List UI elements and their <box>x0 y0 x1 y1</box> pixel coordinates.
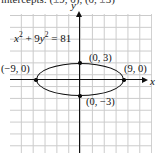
point-label-left-vertex: (−9, 0) <box>1 63 30 74</box>
point-label-right-vertex: (9, 0) <box>124 63 147 74</box>
point-marker-left-vertex <box>34 78 37 81</box>
point-label-bottom-vertex: (0, −3) <box>86 96 115 107</box>
y-axis-label: y <box>71 0 76 11</box>
y-axis-arrow-icon <box>76 11 82 17</box>
point-label-top-vertex: (0, 3) <box>89 52 112 63</box>
ellipse-graph-figure: intercepts: (±9, 0), (0, ±3) y x x2 + 9y… <box>0 0 161 153</box>
clipped-caption: intercepts: (±9, 0), (0, ±3) <box>1 0 161 5</box>
point-marker-top-vertex <box>78 61 81 64</box>
equation-rhs: = 81 <box>49 32 72 44</box>
equation-label: x2 + 9y2 = 81 <box>14 33 71 44</box>
x-axis-arrow-icon <box>142 77 148 83</box>
point-marker-bottom-vertex <box>78 94 81 97</box>
point-marker-right-vertex <box>122 78 125 81</box>
x-axis-label: x <box>150 75 155 87</box>
equation-plus: + 9 <box>23 32 40 44</box>
ellipse-curve <box>36 63 124 96</box>
